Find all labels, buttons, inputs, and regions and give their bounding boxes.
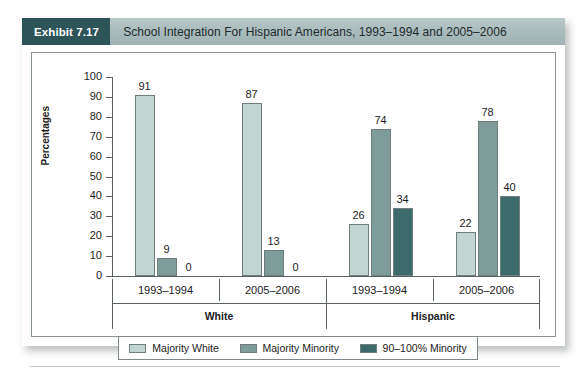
x-axis-category-label: 1993–1994 (326, 277, 433, 303)
x-axis-group-label: Hispanic (326, 303, 540, 329)
y-axis-tick-label-box: 0 (76, 276, 102, 288)
exhibit-figure: Exhibit 7.17 School Integration For Hisp… (0, 0, 588, 378)
y-axis-tick (106, 256, 112, 257)
x-axis-category-row: 1993–19942005–20061993–19942005–2006 (112, 277, 540, 303)
y-axis-tick-label-box: 80 (76, 117, 102, 129)
y-axis-tick (106, 196, 112, 197)
bar-value-label: 40 (490, 181, 530, 193)
bar (242, 103, 262, 276)
y-axis-tick-label-box: 20 (76, 236, 102, 248)
y-axis-tick (106, 117, 112, 118)
y-axis-tick (106, 177, 112, 178)
legend-swatch-icon (240, 344, 257, 353)
legend-swatch-icon (360, 344, 377, 353)
exhibit-number-badge: Exhibit 7.17 (22, 18, 110, 45)
y-axis-tick-label: 70 (76, 130, 102, 142)
legend-swatch-icon (129, 344, 146, 353)
y-axis-tick-label-box: 10 (76, 256, 102, 268)
x-axis-group-separator (326, 303, 327, 329)
bar (349, 224, 369, 276)
y-axis-tick-label-box: 50 (76, 177, 102, 189)
x-axis-group-separator (112, 303, 113, 329)
y-axis-tick-label: 60 (76, 150, 102, 162)
chart-legend: Majority WhiteMajority Minority90–100% M… (118, 336, 478, 360)
bar (478, 121, 498, 276)
y-axis-tick (106, 77, 112, 78)
legend-label: Majority Minority (263, 342, 339, 354)
y-axis-tick (106, 236, 112, 237)
bar-value-label: 78 (468, 106, 508, 118)
y-axis-tick (106, 137, 112, 138)
y-axis-tick-label-box: 90 (76, 97, 102, 109)
y-axis-tick-label: 40 (76, 189, 102, 201)
y-axis-tick-label-box: 100 (76, 77, 102, 89)
bar-value-label: 0 (276, 261, 316, 273)
bar (456, 232, 476, 276)
bar-value-label: 13 (254, 235, 294, 247)
y-axis-tick (106, 97, 112, 98)
exhibit-title: School Integration For Hispanic American… (110, 18, 507, 45)
x-axis-group-label: White (112, 303, 326, 329)
x-axis-group-separator (326, 279, 327, 303)
y-axis-tick-label: 50 (76, 170, 102, 182)
exhibit-panel: Exhibit 7.17 School Integration For Hisp… (22, 18, 565, 346)
y-axis-tick-label: 10 (76, 249, 102, 261)
x-axis-separator (433, 279, 434, 301)
y-axis-title: Percentages (40, 152, 51, 166)
chart-frame: Percentages 0102030405060708090100 91908… (31, 52, 556, 337)
y-axis-tick-label: 30 (76, 209, 102, 221)
bar-value-label: 0 (169, 261, 209, 273)
x-axis-group-separator (539, 279, 540, 303)
bar-value-label: 34 (383, 193, 423, 205)
y-axis-tick-label-box: 30 (76, 216, 102, 228)
x-axis-group-separator (539, 303, 540, 329)
bar (500, 196, 520, 276)
bar-value-label: 74 (361, 114, 401, 126)
y-axis-tick-label: 90 (76, 90, 102, 102)
legend-label: 90–100% Minority (383, 342, 467, 354)
bar-value-label: 9 (147, 243, 187, 255)
bar (393, 208, 413, 276)
y-axis-tick (106, 216, 112, 217)
bars-container: 919087130267434227840 (113, 77, 540, 276)
y-axis-tick-label-box: 60 (76, 157, 102, 169)
legend-item: Majority White (129, 342, 219, 354)
y-axis-tick-label: 80 (76, 110, 102, 122)
y-axis-tick (106, 157, 112, 158)
y-axis-tick-label: 0 (76, 269, 102, 281)
x-axis-separator (219, 279, 220, 301)
x-axis-group-separator (112, 279, 113, 303)
legend-label: Majority White (152, 342, 219, 354)
x-axis-group-row: WhiteHispanic (112, 303, 540, 329)
y-axis-tick-label-box: 70 (76, 137, 102, 149)
footer-rule (30, 366, 560, 367)
plot-area: Percentages 0102030405060708090100 91908… (32, 53, 555, 336)
legend-item: Majority Minority (240, 342, 339, 354)
x-axis-category-label: 2005–2006 (433, 277, 540, 303)
y-axis-tick-label: 100 (76, 70, 102, 82)
bar-value-label: 91 (125, 80, 165, 92)
x-axis-category-label: 1993–1994 (112, 277, 219, 303)
y-axis-tick-label: 20 (76, 229, 102, 241)
x-axis-category-label: 2005–2006 (219, 277, 326, 303)
exhibit-header: Exhibit 7.17 School Integration For Hisp… (22, 18, 565, 45)
legend-item: 90–100% Minority (360, 342, 467, 354)
bar-value-label: 87 (232, 88, 272, 100)
y-axis-tick-label-box: 40 (76, 196, 102, 208)
